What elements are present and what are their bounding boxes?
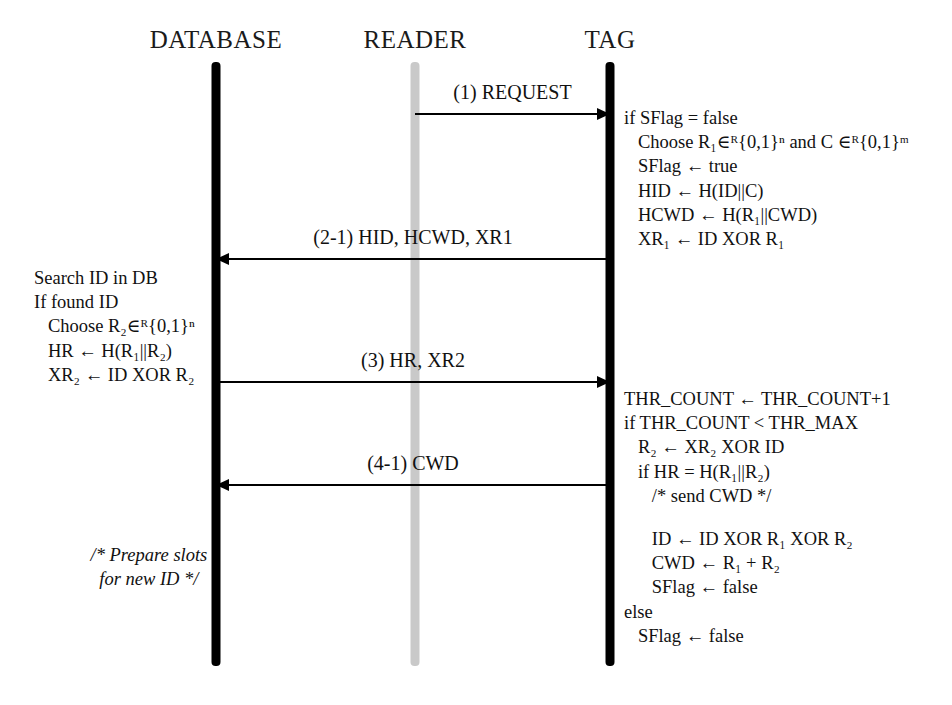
sequence-diagram: DATABASE READER TAG (1) REQUEST (2-1) HI… <box>0 0 952 705</box>
code-line: /* send CWD */ <box>624 484 891 508</box>
note-database-prepare-slots: /* Prepare slots for new ID */ <box>72 519 207 616</box>
code-line: SFlag ← true <box>624 154 909 178</box>
code-line: HID ← H(ID||C) <box>624 179 909 203</box>
note-line: /* Prepare slots <box>91 545 208 565</box>
message-line <box>229 484 610 486</box>
code-line: Choose R₂∈ᴿ{0,1}ⁿ <box>34 314 195 338</box>
code-block-tag-verify: THR_COUNT ← THR_COUNT+1 if THR_COUNT < T… <box>624 387 891 508</box>
code-line: CWD ← R₁ + R₂ <box>624 551 853 575</box>
code-line: R₂ ← XR₂ XOR ID <box>624 435 891 459</box>
code-line: Choose R₁∈ᴿ{0,1}ⁿ and C ∈ᴿ{0,1}ᵐ <box>624 130 909 154</box>
arrowhead-left-icon <box>216 479 229 491</box>
message-line <box>229 258 610 260</box>
code-line: else <box>624 600 853 624</box>
message-line <box>415 113 597 115</box>
code-line: ID ← ID XOR R₁ XOR R₂ <box>624 527 853 551</box>
code-line: THR_COUNT ← THR_COUNT+1 <box>624 387 891 411</box>
message-label-cwd: (4-1) CWD <box>216 452 610 475</box>
code-line: HR ← H(R₁||R₂) <box>34 339 195 363</box>
code-line: if HR = H(R₁||R₂) <box>624 460 891 484</box>
actor-label-reader: READER <box>364 26 467 54</box>
note-line: for new ID */ <box>99 569 198 589</box>
arrowhead-right-icon <box>597 108 610 120</box>
arrowhead-right-icon <box>597 376 610 388</box>
code-block-database-lookup: Search ID in DB If found ID Choose R₂∈ᴿ{… <box>34 266 195 387</box>
code-block-tag-update: ID ← ID XOR R₁ XOR R₂ CWD ← R₁ + R₂ SFla… <box>624 527 853 648</box>
arrowhead-left-icon <box>216 253 229 265</box>
code-line: XR₁ ← ID XOR R₁ <box>624 227 909 251</box>
message-label-hid-hcwd-xr1: (2-1) HID, HCWD, XR1 <box>216 226 610 249</box>
code-line: XR₂ ← ID XOR R₂ <box>34 363 195 387</box>
message-label-hr-xr2: (3) HR, XR2 <box>216 349 610 372</box>
code-line: SFlag ← false <box>624 624 853 648</box>
message-line <box>216 381 597 383</box>
code-line: if THR_COUNT < THR_MAX <box>624 411 891 435</box>
message-label-request: (1) REQUEST <box>415 81 610 104</box>
code-line: HCWD ← H(R₁||CWD) <box>624 203 909 227</box>
code-block-tag-initial: if SFlag = false Choose R₁∈ᴿ{0,1}ⁿ and C… <box>624 106 909 251</box>
code-line: If found ID <box>34 290 195 314</box>
code-line: SFlag ← false <box>624 575 853 599</box>
actor-label-database: DATABASE <box>150 26 283 54</box>
code-line: if SFlag = false <box>624 106 909 130</box>
actor-label-tag: TAG <box>585 26 636 54</box>
code-line: Search ID in DB <box>34 266 195 290</box>
